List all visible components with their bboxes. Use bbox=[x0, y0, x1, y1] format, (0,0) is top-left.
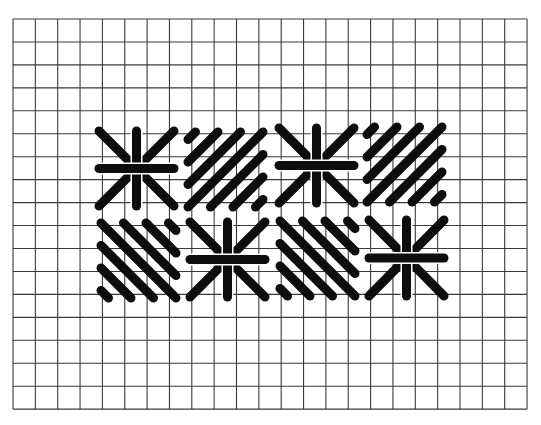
diagonal-stitch bbox=[101, 291, 109, 299]
diagonal-stitch bbox=[256, 200, 264, 208]
diagonal-stitch bbox=[435, 195, 443, 203]
star-stitch-bottom-2 bbox=[190, 222, 265, 297]
stitch-chart bbox=[0, 0, 541, 425]
diagonal-stitch bbox=[280, 289, 288, 297]
star-stitch-top-3 bbox=[279, 128, 354, 203]
diagonal-stitch bbox=[348, 221, 356, 229]
diagonal-stitch bbox=[188, 132, 196, 140]
star-stitch-top-1 bbox=[99, 131, 174, 206]
star-stitch-bottom-4 bbox=[369, 220, 444, 296]
diagonal-stitch bbox=[169, 223, 177, 231]
diagonal-stitch bbox=[367, 127, 375, 135]
